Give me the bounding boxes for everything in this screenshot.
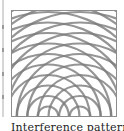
wavefront-ring: [11, 12, 117, 117]
wavefront-ring: [11, 12, 117, 117]
interference-pattern-diagram: [11, 10, 117, 117]
adjacent-figure-tick: [2, 25, 4, 29]
adjacent-figure-tick: [2, 95, 4, 99]
adjacent-figure-tick: [2, 48, 4, 52]
interference-pattern-figure: [11, 10, 117, 117]
adjacent-figure-tick: [2, 72, 4, 76]
figure-caption: Interference pattern: [11, 122, 124, 131]
adjacent-figure-edge: [2, 0, 4, 117]
